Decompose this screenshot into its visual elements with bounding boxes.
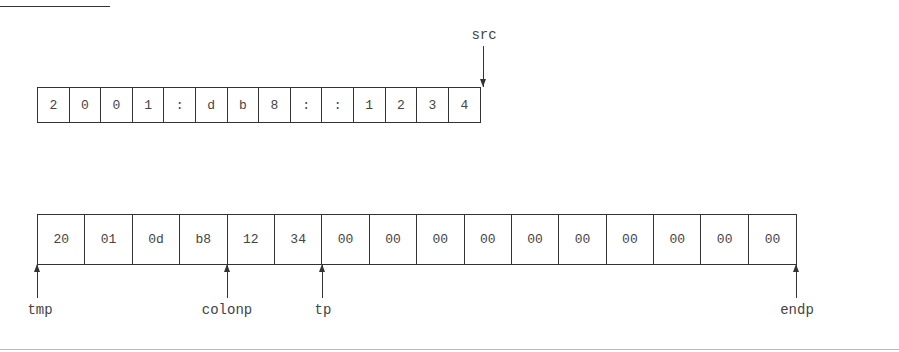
char-cell: : bbox=[291, 88, 323, 122]
byte-cell: 00 bbox=[512, 215, 559, 264]
byte-cell: 00 bbox=[607, 215, 654, 264]
byte-cell: 00 bbox=[465, 215, 512, 264]
byte-cell: 20 bbox=[38, 215, 85, 264]
top-rule bbox=[0, 6, 110, 7]
dest-byte-array: 20 01 0d b8 12 34 00 00 00 00 00 00 00 0… bbox=[37, 214, 797, 265]
byte-cell: 00 bbox=[701, 215, 748, 264]
byte-cell: 00 bbox=[370, 215, 417, 264]
char-cell: 0 bbox=[101, 88, 133, 122]
tp-pointer-label: tp bbox=[315, 302, 332, 318]
char-cell: 8 bbox=[259, 88, 291, 122]
char-cell: 2 bbox=[386, 88, 418, 122]
char-cell: 2 bbox=[38, 88, 70, 122]
char-cell: 0 bbox=[70, 88, 102, 122]
src-pointer-label: src bbox=[471, 27, 496, 43]
char-cell: 1 bbox=[354, 88, 386, 122]
endp-arrow-icon bbox=[796, 264, 797, 298]
src-arrow-icon bbox=[483, 46, 484, 87]
char-cell: : bbox=[322, 88, 354, 122]
bottom-rule bbox=[0, 349, 899, 350]
source-string-array: 2 0 0 1 : d b 8 : : 1 2 3 4 bbox=[37, 87, 481, 123]
char-cell: b bbox=[228, 88, 260, 122]
byte-cell: 00 bbox=[322, 215, 369, 264]
colonp-pointer-label: colonp bbox=[202, 302, 252, 318]
byte-cell: 0d bbox=[133, 215, 180, 264]
tmp-arrow-icon bbox=[37, 264, 38, 298]
byte-cell: 12 bbox=[228, 215, 275, 264]
byte-cell: 00 bbox=[559, 215, 606, 264]
byte-cell: b8 bbox=[180, 215, 227, 264]
colonp-arrow-icon bbox=[227, 264, 228, 298]
char-cell: : bbox=[164, 88, 196, 122]
char-cell: 4 bbox=[449, 88, 481, 122]
byte-cell: 00 bbox=[749, 215, 796, 264]
tp-arrow-icon bbox=[322, 264, 323, 298]
byte-cell: 34 bbox=[275, 215, 322, 264]
byte-cell: 00 bbox=[417, 215, 464, 264]
tmp-pointer-label: tmp bbox=[27, 302, 52, 318]
byte-cell: 01 bbox=[85, 215, 132, 264]
char-cell: 1 bbox=[133, 88, 165, 122]
byte-cell: 00 bbox=[654, 215, 701, 264]
char-cell: 3 bbox=[417, 88, 449, 122]
endp-pointer-label: endp bbox=[780, 302, 814, 318]
char-cell: d bbox=[196, 88, 228, 122]
